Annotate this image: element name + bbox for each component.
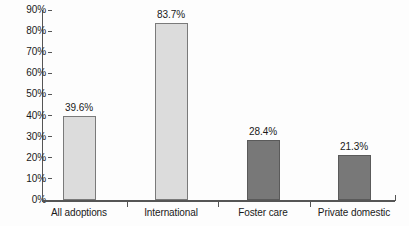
y-axis-tick: 50% xyxy=(0,88,52,100)
x-axis-category-label: Private domestic xyxy=(308,206,400,220)
y-axis-tick: 10% xyxy=(0,173,52,185)
bar-value-label: 83.7% xyxy=(125,9,217,21)
y-axis-tick-label: 50% xyxy=(26,88,46,100)
x-axis-end-tick xyxy=(42,195,43,201)
y-axis-tick-mark xyxy=(48,94,52,95)
bar-value-label: 28.4% xyxy=(217,126,309,138)
x-axis-category-label: Foster care xyxy=(217,206,309,220)
y-axis-tick: 30% xyxy=(0,131,52,143)
y-axis-tick-label: 70% xyxy=(26,46,46,58)
y-axis-tick-label: 90% xyxy=(26,4,46,16)
y-axis-tick: 90% xyxy=(0,4,52,16)
y-axis-tick-label: 10% xyxy=(26,173,46,185)
y-axis-tick: 80% xyxy=(0,25,52,37)
y-axis-tick-mark xyxy=(48,52,52,53)
y-axis-tick-label: 60% xyxy=(26,67,46,79)
y-axis-tick-mark xyxy=(48,157,52,158)
bar-value-label: 21.3% xyxy=(308,141,400,153)
x-axis-category-label: All adoptions xyxy=(33,206,125,220)
y-axis-tick: 20% xyxy=(0,152,52,164)
bar xyxy=(155,23,188,200)
x-axis-category-label: International xyxy=(125,206,217,220)
y-axis-tick-mark xyxy=(48,31,52,32)
y-axis-tick-mark xyxy=(48,178,52,179)
y-axis-tick: 60% xyxy=(0,67,52,79)
y-axis-tick-label: 80% xyxy=(26,25,46,37)
bar-value-label: 39.6% xyxy=(33,102,125,114)
y-axis-tick-mark xyxy=(48,10,52,11)
bar xyxy=(63,116,96,200)
bar xyxy=(338,155,371,200)
y-axis-tick: 70% xyxy=(0,46,52,58)
bar-chart: 0%10%20%30%40%50%60%70%80%90% 39.6%83.7%… xyxy=(0,0,409,226)
y-axis-tick-label: 30% xyxy=(26,131,46,143)
x-axis-end-tick xyxy=(395,195,396,201)
y-axis-tick-mark xyxy=(48,115,52,116)
y-axis-tick-label: 20% xyxy=(26,152,46,164)
bar xyxy=(247,140,280,200)
y-axis-tick-mark xyxy=(48,136,52,137)
y-axis-tick-mark xyxy=(48,73,52,74)
